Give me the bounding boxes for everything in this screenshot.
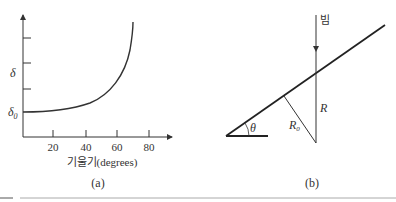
x-tick-label: 40 xyxy=(81,141,93,153)
figure: 20 40 60 80 기울기(degrees) δ δ0 (a) θ 빔 R0… xyxy=(0,0,396,202)
r-label: R xyxy=(319,101,328,115)
y-axis-label: δ xyxy=(10,66,16,80)
r0-label: R0 xyxy=(288,118,300,133)
panel-b-caption: (b) xyxy=(305,176,319,190)
data-curve xyxy=(23,22,133,112)
x-tick-label: 20 xyxy=(48,141,60,153)
x-axis-title: 기울기(degrees) xyxy=(67,156,138,169)
angle-arc xyxy=(245,123,249,136)
x-tick-label: 60 xyxy=(112,141,124,153)
inclined-surface xyxy=(226,25,385,136)
panel-a-caption: (a) xyxy=(91,176,104,190)
beam-label: 빔 xyxy=(320,14,330,27)
panel-a-chart: 20 40 60 80 기울기(degrees) δ δ0 (a) xyxy=(8,15,172,190)
theta-label: θ xyxy=(250,121,256,135)
panel-b-diagram: θ 빔 R0 R (b) xyxy=(226,14,385,190)
y-baseline-label: δ0 xyxy=(8,105,18,121)
beam-arrow-icon xyxy=(313,46,319,52)
x-tick-label: 80 xyxy=(144,141,156,153)
